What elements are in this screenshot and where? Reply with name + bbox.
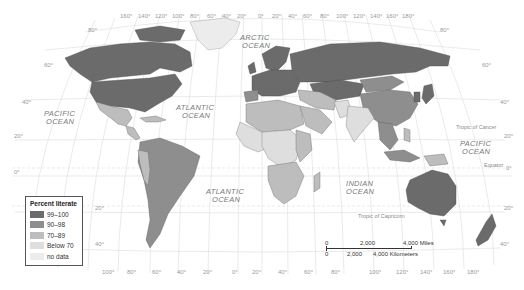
arctic-ocean-label-2: OCEAN	[242, 41, 270, 50]
pacific-ocean-east-label-2: OCEAN	[462, 147, 490, 156]
swatch-90-98	[30, 221, 44, 228]
svg-text:20°: 20°	[14, 133, 24, 139]
svg-text:60°: 60°	[207, 13, 217, 19]
svg-text:40°: 40°	[500, 99, 510, 105]
svg-text:120°: 120°	[396, 269, 409, 275]
legend-item-90-98: 90–98	[30, 220, 78, 231]
scale-bar: 0 2,000 4,000 Miles 0 2,000 4,000 Kilome…	[325, 240, 435, 262]
east-africa	[296, 130, 312, 162]
svg-text:40°: 40°	[288, 13, 298, 19]
atlantic-ocean-south-label-2: OCEAN	[212, 195, 240, 204]
tasmania	[440, 220, 446, 226]
svg-text:80°: 80°	[190, 13, 200, 19]
svg-text:60°: 60°	[152, 269, 162, 275]
svg-text:40°: 40°	[22, 99, 32, 105]
svg-text:20°: 20°	[95, 205, 105, 211]
svg-text:80°: 80°	[320, 13, 330, 19]
svg-text:140°: 140°	[370, 13, 383, 19]
scale-km-start: 0	[325, 251, 328, 257]
right-latitude-labels: 80° 60° 40° 20° 0° 20° 40°	[440, 27, 514, 247]
svg-text:40°: 40°	[95, 241, 105, 247]
svg-text:140°: 140°	[138, 13, 151, 19]
svg-text:40°: 40°	[278, 269, 288, 275]
swatch-no-data	[30, 253, 44, 260]
swatch-70-89	[30, 232, 44, 239]
iberia	[244, 90, 258, 102]
svg-text:0°: 0°	[506, 165, 512, 171]
svg-text:60°: 60°	[482, 62, 492, 68]
top-longitude-labels: 160° 140° 120° 100° 80° 60° 40° 20° 0° 2…	[120, 13, 415, 19]
svg-text:20°: 20°	[252, 269, 262, 275]
india	[346, 106, 374, 142]
legend-title: Percent literate	[30, 200, 78, 207]
svg-text:120°: 120°	[155, 13, 168, 19]
indian-ocean-label-2: OCEAN	[346, 187, 374, 196]
southeast-asia	[378, 122, 398, 150]
legend-item-70-89: 70–89	[30, 230, 78, 241]
svg-text:60°: 60°	[304, 269, 314, 275]
swatch-99-100	[30, 211, 44, 218]
svg-text:20°: 20°	[203, 269, 213, 275]
svg-text:40°: 40°	[177, 269, 187, 275]
caribbean	[140, 116, 166, 122]
arabia	[300, 106, 332, 134]
swatch-below-70	[30, 242, 44, 249]
australia	[406, 170, 456, 216]
svg-text:20°: 20°	[504, 205, 514, 211]
southern-africa	[268, 162, 304, 204]
svg-text:80°: 80°	[331, 269, 341, 275]
greenland	[190, 18, 240, 50]
tropic-of-cancer-label: Tropic of Cancer	[456, 124, 497, 130]
scale-line	[326, 248, 411, 249]
bottom-longitude-labels: 100° 80° 60° 40° 20° 0° 20° 40° 60° 80° …	[102, 269, 480, 275]
svg-text:180°: 180°	[467, 269, 480, 275]
svg-text:80°: 80°	[88, 27, 98, 33]
svg-text:60°: 60°	[44, 62, 54, 68]
indonesia	[384, 150, 420, 162]
svg-text:160°: 160°	[443, 269, 456, 275]
landmasses	[65, 18, 496, 248]
madagascar	[314, 172, 320, 192]
pacific-ocean-west-label-2: OCEAN	[46, 117, 74, 126]
svg-text:0°: 0°	[232, 269, 238, 275]
legend: Percent literate 99–100 90–98 70–89 Belo…	[25, 196, 83, 266]
svg-text:20°: 20°	[272, 13, 282, 19]
central-america	[126, 126, 140, 140]
atlantic-ocean-north-label-2: OCEAN	[182, 111, 210, 120]
svg-text:120°: 120°	[353, 13, 366, 19]
svg-text:80°: 80°	[440, 27, 450, 33]
north-africa	[246, 100, 304, 132]
legend-item-no-data: no data	[30, 251, 78, 262]
svg-text:180°: 180°	[402, 13, 415, 19]
new-guinea	[424, 154, 448, 166]
svg-text:100°: 100°	[102, 269, 115, 275]
scale-miles-mid: 2,000	[360, 240, 375, 246]
equator-label: Equator	[484, 162, 503, 168]
svg-text:80°: 80°	[127, 269, 137, 275]
legend-item-99-100: 99–100	[30, 209, 78, 220]
svg-text:160°: 160°	[386, 13, 399, 19]
scale-miles-end: 4,000 Miles	[403, 240, 434, 246]
tropic-of-capricorn-label: Tropic of Capricorn	[358, 213, 405, 219]
svg-text:20°: 20°	[237, 13, 247, 19]
korea	[414, 92, 420, 102]
svg-text:40°: 40°	[222, 13, 232, 19]
legend-item-below-70: Below 70	[30, 241, 78, 252]
scale-km-end: 4,000 Kilometers	[373, 251, 418, 257]
svg-text:20°: 20°	[504, 133, 514, 139]
europe	[252, 70, 300, 96]
svg-text:60°: 60°	[303, 13, 313, 19]
svg-text:160°: 160°	[120, 13, 133, 19]
svg-text:100°: 100°	[336, 13, 349, 19]
scale-km-mid: 2,000	[347, 251, 362, 257]
russia	[290, 42, 450, 82]
svg-text:0°: 0°	[258, 13, 264, 19]
arctic-islands	[135, 26, 185, 42]
svg-text:100°: 100°	[172, 13, 185, 19]
svg-text:40°: 40°	[500, 241, 510, 247]
uk	[248, 62, 256, 74]
philippines	[404, 128, 410, 142]
mongolia	[360, 76, 404, 92]
scale-tick-end	[411, 246, 412, 249]
svg-text:100°: 100°	[369, 269, 382, 275]
